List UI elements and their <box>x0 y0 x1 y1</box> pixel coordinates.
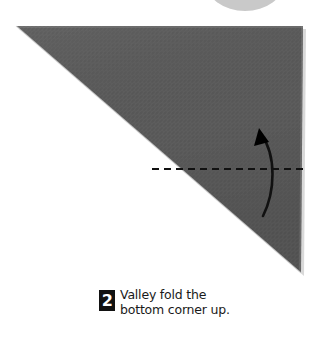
instruction-text-line-1: Valley fold the <box>120 288 230 303</box>
instruction-caption: 2 Valley fold the bottom corner up. <box>99 288 230 317</box>
instruction-text: Valley fold the bottom corner up. <box>120 288 230 317</box>
page-thumb-tab-shape <box>206 0 284 11</box>
origami-instruction-page: 2 Valley fold the bottom corner up. <box>0 0 321 340</box>
step-number-badge: 2 <box>99 290 115 311</box>
instruction-text-line-2: bottom corner up. <box>120 303 230 318</box>
